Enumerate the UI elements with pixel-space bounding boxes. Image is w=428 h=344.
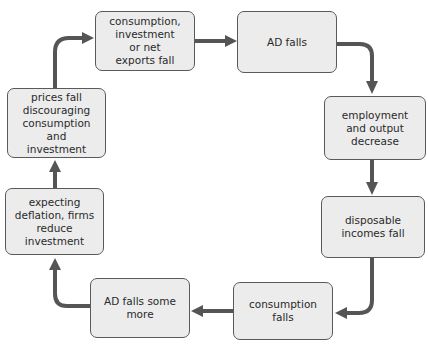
node-consumption-falls: consumption falls [233,282,333,340]
node-ad-falls: AD falls [237,11,337,73]
arrow-n2-n3 [337,44,372,84]
node-firms-reduce-investment: expecting deflation, firms reduce invest… [5,188,104,255]
arrow-n8-n1 [55,38,84,88]
node-employment-output-decrease: employment and output decrease [324,96,426,160]
node-ad-falls-more: AD falls some more [90,278,190,338]
node-spending-falls: consumption, investment or net exports f… [95,11,195,71]
node-prices-fall: prices fall discouraging consumption and… [7,88,106,158]
node-disposable-incomes-fall: disposable incomes fall [321,196,425,258]
flow-arrows [0,0,428,344]
deflation-cycle-diagram: consumption, investment or net exports f… [0,0,428,344]
arrow-n6-n7 [55,268,90,306]
arrow-n4-n5 [345,258,372,313]
